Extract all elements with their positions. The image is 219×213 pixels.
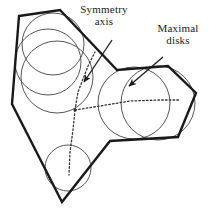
- maximal-disks-label: Maximal disks: [148, 22, 208, 46]
- disk-right-right: [121, 66, 195, 140]
- axis-branch-right: [75, 100, 180, 110]
- disk-upper-left-mid: [15, 29, 81, 95]
- axis-junction-point: [73, 108, 76, 111]
- maximal-disks-label-line2: disks: [148, 34, 208, 46]
- maximal-disks-label-line1: Maximal: [157, 22, 198, 34]
- maximal-disks-arrow: [129, 57, 163, 86]
- disk-upper-left-low: [21, 41, 93, 113]
- symmetry-axis-label-line1: Symmetry: [80, 3, 127, 15]
- symmetry-axis-label: Symmetry axis: [73, 3, 135, 27]
- disk-right-left: [98, 67, 170, 139]
- symmetry-axis-figure: Symmetry axis Maximal disks: [0, 0, 219, 213]
- symmetry-axis-label-line2: axis: [73, 15, 135, 27]
- axis-branch-bottom: [69, 110, 75, 175]
